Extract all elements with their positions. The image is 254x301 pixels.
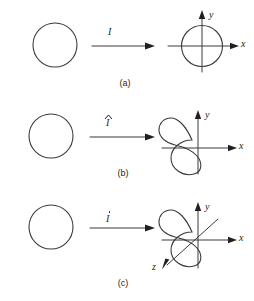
result-curve-b bbox=[159, 118, 201, 175]
figure-panel-group: I I I y x y x y x z (a) (b) (c) bbox=[0, 0, 254, 301]
result-curve-c bbox=[159, 210, 201, 267]
operator-label-c-text: I bbox=[106, 213, 109, 224]
x-axis-arrowhead-a bbox=[230, 43, 239, 49]
y-axis-arrowhead-c bbox=[195, 202, 201, 211]
x-axis-arrowhead-b bbox=[228, 145, 237, 151]
x-axis-label-c: x bbox=[239, 232, 243, 243]
operator-label-a: I bbox=[108, 26, 111, 37]
operator-accent-hat-b bbox=[103, 113, 117, 121]
y-axis-arrowhead-a bbox=[199, 10, 205, 19]
y-axis-label-a: y bbox=[209, 9, 213, 20]
arrow-head-c bbox=[145, 225, 155, 232]
y-axis-arrowhead-b bbox=[195, 110, 201, 119]
y-axis-label-c: y bbox=[205, 201, 209, 212]
arrow-head-a bbox=[145, 43, 155, 50]
operator-accent-dot-c bbox=[109, 211, 111, 213]
y-axis-label-b: y bbox=[205, 109, 209, 120]
x-axis-arrowhead-c bbox=[228, 237, 237, 243]
panel-caption-b: (b) bbox=[103, 168, 143, 178]
operator-label-c: I bbox=[106, 213, 109, 224]
diagram-canvas bbox=[0, 0, 254, 301]
panel-caption-c: (c) bbox=[103, 278, 143, 288]
x-axis-label-b: x bbox=[239, 140, 243, 151]
z-axis-label-c: z bbox=[152, 261, 156, 272]
panel-caption-a: (a) bbox=[105, 78, 145, 88]
z-axis-c bbox=[167, 219, 218, 265]
source-circle-a bbox=[33, 23, 77, 67]
arrow-head-b bbox=[145, 134, 155, 141]
source-circle-b bbox=[29, 114, 73, 158]
x-axis-label-a: x bbox=[241, 38, 245, 49]
source-circle-c bbox=[29, 205, 73, 249]
